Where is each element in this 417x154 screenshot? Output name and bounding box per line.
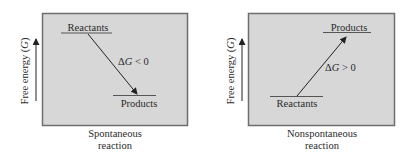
caption-line-2: reaction [98, 140, 133, 151]
products-label: Products [331, 22, 368, 33]
panel-nonspontaneous: Free energy (G) Products Reactants ΔG > … [225, 14, 395, 152]
delta-g-label: ΔG > 0 [325, 62, 356, 73]
products-label: Products [121, 98, 158, 109]
free-energy-axis-label: Free energy (G) [225, 37, 237, 104]
reactants-label: Reactants [68, 22, 109, 33]
caption-line-1: Spontaneous [88, 128, 142, 139]
free-energy-axis-label: Free energy (G) [19, 37, 31, 104]
caption-line-2: reaction [305, 140, 340, 151]
reactants-label: Reactants [277, 98, 318, 109]
free-energy-diagram: Free energy (G) Reactants Products ΔG < … [0, 0, 417, 154]
delta-g-label: ΔG < 0 [118, 56, 149, 67]
panel-spontaneous: Free energy (G) Reactants Products ΔG < … [19, 14, 188, 152]
panel-nonspontaneous-frame [249, 14, 395, 126]
caption-line-1: Nonspontaneous [287, 128, 357, 139]
panel-spontaneous-frame [43, 14, 188, 126]
